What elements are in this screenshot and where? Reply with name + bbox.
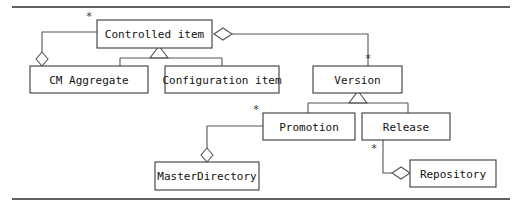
class-label-controlled-item: Controlled item [105,28,205,41]
aggregation-diamond-controlled-item [214,28,232,40]
class-label-release: Release [383,121,429,134]
class-node-controlled-item[interactable]: Controlled item [97,20,212,48]
class-label-configuration-item: Configuration item [162,74,282,87]
connector-controlled-item-version [232,34,368,66]
class-node-promotion[interactable]: Promotion [263,113,355,140]
connector-master-directory-promotion [207,126,263,148]
class-label-cm-aggregate: CM Aggregate [49,74,128,87]
multiplicity-label-promotion: * [253,103,260,116]
class-node-version[interactable]: Version [313,66,402,93]
aggregation-diamond-repository [392,167,410,179]
connector-cm-aggregate-controlled-item [42,32,97,52]
class-node-release[interactable]: Release [362,113,450,140]
aggregation-diamond-cm-aggregate [36,52,48,66]
uml-class-diagram: Controlled item CM Aggregate Configurati… [0,0,522,212]
class-node-configuration-item[interactable]: Configuration item [162,66,282,93]
multiplicity-label-controlled-item: * [86,10,93,23]
uml-diagram-canvas: Controlled item CM Aggregate Configurati… [0,0,522,212]
class-label-version: Version [334,74,380,87]
class-node-master-directory[interactable]: MasterDirectory [155,162,259,190]
class-node-cm-aggregate[interactable]: CM Aggregate [30,66,148,93]
class-label-promotion: Promotion [279,121,339,134]
multiplicity-label-release: * [371,142,378,155]
class-label-master-directory: MasterDirectory [157,170,257,183]
multiplicity-label-version: * [365,52,372,65]
aggregation-diamond-master-directory [201,148,213,162]
class-node-repository[interactable]: Repository [410,160,496,187]
class-label-repository: Repository [420,168,487,181]
connector-release-repository [383,140,392,173]
